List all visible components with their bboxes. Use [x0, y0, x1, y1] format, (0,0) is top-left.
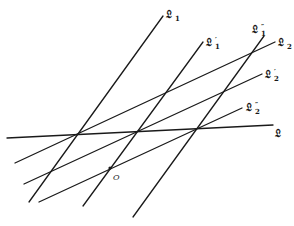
label-L2-prime: 𝔏 ′ 2: [264, 67, 279, 83]
svg-text:1: 1: [261, 29, 266, 38]
svg-text:𝔏: 𝔏: [165, 9, 172, 20]
line-L: [7, 125, 273, 138]
svg-text:𝔏: 𝔏: [264, 69, 271, 80]
svg-text:𝔏: 𝔏: [205, 37, 212, 48]
line-L1-prime: [83, 42, 203, 206]
svg-text:𝔏: 𝔏: [251, 24, 258, 35]
svg-text:2: 2: [287, 42, 292, 51]
svg-text:𝔏: 𝔏: [274, 128, 281, 139]
line-L1: [29, 16, 163, 202]
svg-text:1: 1: [175, 14, 180, 23]
label-L2: 𝔏 2: [277, 37, 292, 51]
svg-text:1: 1: [215, 42, 220, 51]
svg-text:𝔏: 𝔏: [245, 102, 252, 113]
label-L1-prime: 𝔏 ′ 1: [205, 35, 220, 51]
line-L2: [15, 42, 275, 163]
label-L2-double-prime: 𝔏 ″ 2: [245, 100, 260, 116]
svg-text:2: 2: [274, 74, 279, 83]
line-L2-prime: [24, 74, 262, 184]
origin-point: [108, 166, 111, 169]
label-L1-double-prime: 𝔏 ″ 1: [251, 22, 266, 38]
label-L: 𝔏: [274, 128, 281, 139]
line-L2-double-prime: [39, 108, 242, 202]
label-L1: 𝔏 1: [165, 9, 180, 23]
origin-label: O: [113, 173, 120, 182]
svg-text:2: 2: [255, 107, 260, 116]
svg-text:𝔏: 𝔏: [277, 37, 284, 48]
line-diagram: O 𝔏 1 𝔏 ′ 1 𝔏 ″ 1 𝔏 2 𝔏 ′ 2 𝔏 ″ 2 𝔏: [0, 0, 294, 226]
